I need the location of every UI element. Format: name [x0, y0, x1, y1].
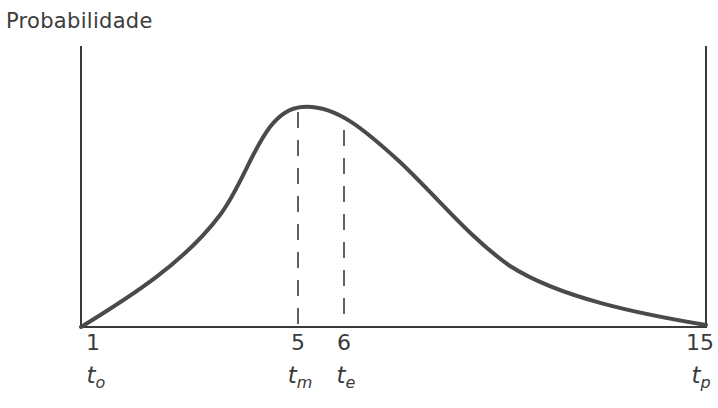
tick-label-1: 1 [86, 330, 100, 355]
tick-label-15: 15 [686, 330, 714, 355]
probability-curve [81, 107, 706, 327]
symbol-t-optimistic: to [87, 362, 106, 392]
tick-label-6: 6 [337, 330, 351, 355]
symbol-t-most-likely: tm [288, 362, 313, 392]
symbol-t-expected: te [337, 362, 356, 392]
symbol-t-pessimistic: tp [691, 362, 710, 392]
distribution-chart [0, 0, 718, 408]
tick-label-5: 5 [291, 330, 305, 355]
